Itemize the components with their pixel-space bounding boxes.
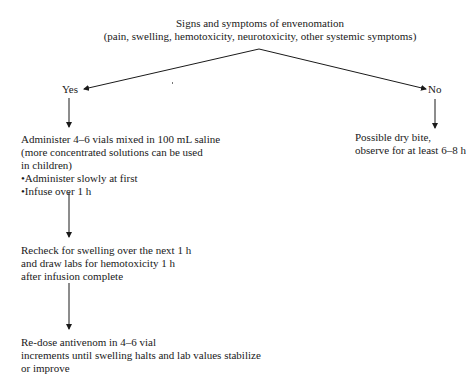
root-node-title: Signs and symptoms of envenomation (pain… bbox=[100, 17, 420, 43]
redose-line-1: Re-dose antivenom in 4–6 vial bbox=[21, 336, 261, 349]
no-label: No bbox=[428, 83, 441, 96]
dry-bite-line-1: Possible dry bite, bbox=[355, 131, 466, 144]
dry-bite-line-2: observe for at least 6–8 h bbox=[355, 144, 466, 157]
redose-line-2: increments until swelling halts and lab … bbox=[21, 349, 261, 362]
administer-line-1: Administer 4–6 vials mixed in 100 mL sal… bbox=[21, 133, 220, 146]
administer-node: Administer 4–6 vials mixed in 100 mL sal… bbox=[21, 133, 220, 198]
recheck-line-1: Recheck for swelling over the next 1 h bbox=[21, 244, 191, 257]
administer-bullet-2: •Infuse over 1 h bbox=[21, 185, 220, 198]
arrow-to-no bbox=[259, 49, 426, 89]
recheck-line-2: and draw labs for hemotoxicity 1 h bbox=[21, 257, 191, 270]
administer-bullet-1: •Administer slowly at first bbox=[21, 172, 220, 185]
administer-line-3: in children) bbox=[21, 159, 220, 172]
redose-node: Re-dose antivenom in 4–6 vial increments… bbox=[21, 336, 261, 375]
administer-line-2: (more concentrated solutions can be used bbox=[21, 146, 220, 159]
recheck-line-3: after infusion complete bbox=[21, 270, 191, 283]
redose-line-3: or improve bbox=[21, 362, 261, 375]
root-subtitle-line: (pain, swelling, hemotoxicity, neurotoxi… bbox=[100, 30, 420, 43]
yes-label: Yes bbox=[62, 83, 78, 96]
root-title-line: Signs and symptoms of envenomation bbox=[100, 17, 420, 30]
arrow-to-yes bbox=[84, 49, 259, 89]
recheck-node: Recheck for swelling over the next 1 h a… bbox=[21, 244, 191, 283]
scan-speck bbox=[172, 82, 173, 84]
dry-bite-node: Possible dry bite, observe for at least … bbox=[355, 131, 466, 157]
